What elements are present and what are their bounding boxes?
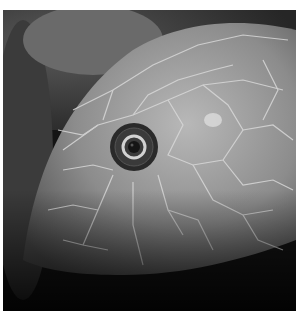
snake-head-illustration [3,10,296,311]
snake-eye [110,123,158,171]
snake-photo [3,10,296,311]
